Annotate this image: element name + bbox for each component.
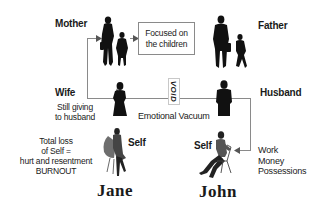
void-label: VOID — [170, 81, 179, 103]
right-vertical-connector — [250, 98, 251, 151]
john-seated-icon — [197, 131, 239, 179]
focused-on-children-box: Focused on the children — [138, 22, 195, 55]
priority-work: Work — [258, 145, 306, 156]
husband-silhouette-icon — [214, 80, 234, 116]
wife-silhouette-icon — [111, 82, 129, 116]
priority-possessions: Possessions — [258, 166, 306, 177]
man-with-child-icon — [212, 15, 250, 69]
jane-name: Jane — [97, 181, 133, 201]
mother-label: Mother — [55, 18, 87, 29]
emotional-vacuum-caption: Emotional Vacuum — [138, 111, 210, 121]
box-line-1: Focused on — [145, 28, 187, 39]
burnout-note-line-4: BURNOUT — [12, 166, 100, 176]
box-line-2: the children — [145, 39, 187, 50]
burnout-note-line-3: hurt and resentment — [12, 156, 100, 166]
void-box: VOID — [168, 78, 180, 105]
burnout-note-line-2: of Self = — [12, 146, 100, 156]
burnout-note-line-1: Total loss — [12, 136, 100, 146]
wife-note-line-1: Still giving — [50, 102, 100, 112]
husband-label: Husband — [260, 87, 301, 98]
john-name: John — [199, 182, 237, 202]
father-label: Father — [258, 20, 287, 31]
burnout-note: Total loss of Self = hurt and resentment… — [12, 136, 100, 176]
jane-self-label: Self — [128, 137, 146, 148]
john-priorities-note: Work Money Possessions — [258, 145, 306, 177]
wife-label: Wife — [55, 87, 75, 98]
wife-note: Still giving to husband — [50, 102, 100, 122]
priority-money: Money — [258, 156, 306, 167]
wife-note-line-2: to husband — [50, 112, 100, 122]
left-vertical-connector — [87, 38, 88, 99]
woman-with-child-icon — [99, 16, 131, 68]
jane-seated-icon — [102, 128, 130, 180]
